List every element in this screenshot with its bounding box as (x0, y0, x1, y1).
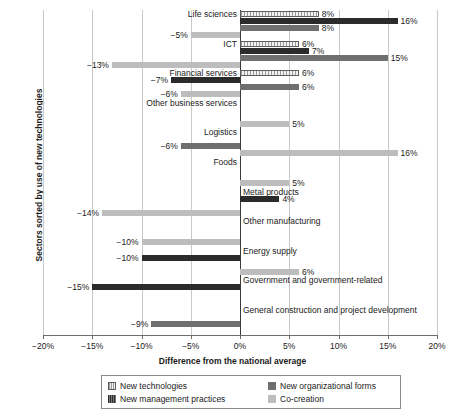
bar-tech (240, 11, 319, 17)
bar-cocr (181, 91, 240, 97)
category-label: Other manufacturing (240, 217, 320, 226)
legend-row: New technologies New organizational form… (108, 379, 394, 392)
bar-mgmt (92, 284, 240, 290)
legend-label-new-organizational-forms: New organizational forms (280, 381, 376, 391)
legend-swatch-co-creation (268, 395, 276, 403)
category-label: Government and government-related (240, 276, 382, 285)
bar-mgmt (142, 255, 241, 261)
bar-cocr (240, 269, 299, 275)
x-tick-label: 5% (283, 341, 295, 351)
x-tick-label: −15% (81, 341, 103, 351)
bar-mgmt (240, 48, 309, 54)
bar-value-label: −6% (161, 142, 181, 150)
x-tick-label: 20% (428, 341, 445, 351)
bar-value-label: −10% (117, 238, 142, 246)
bar-cocr (112, 62, 240, 68)
category-label: Financial services (169, 69, 240, 78)
x-tick-label: −5% (182, 341, 199, 351)
category-label: General construction and project develop… (240, 306, 417, 315)
legend: New technologies New organizational form… (101, 375, 401, 409)
bar-cocr (240, 121, 289, 127)
bar-value-label: −5% (171, 31, 191, 39)
bar-value-label: −10% (117, 254, 142, 262)
bar-value-label: 15% (388, 54, 408, 62)
legend-row: New management practices Co-creation (108, 392, 394, 405)
legend-item-new-management-practices: New management practices (108, 394, 268, 404)
bar-value-label: −15% (67, 283, 92, 291)
legend-label-new-management-practices: New management practices (120, 394, 225, 404)
bar-org (181, 143, 240, 149)
x-tick-label: 0% (234, 341, 246, 351)
bar-value-label: −9% (131, 320, 151, 328)
bar-org (240, 55, 388, 61)
bar-cocr (240, 150, 398, 156)
bar-value-label: 5% (289, 120, 304, 128)
bar-org (240, 84, 299, 90)
bar-value-label: −14% (77, 209, 102, 217)
bar-value-label: 16% (398, 149, 418, 157)
x-axis-line (43, 335, 437, 336)
category-label: Other business services (146, 99, 240, 108)
bar-cocr (191, 32, 240, 38)
legend-item-co-creation: Co-creation (268, 394, 324, 404)
bar-value-label: 5% (289, 179, 304, 187)
category-label: Logistics (204, 128, 240, 137)
category-label: ICT (223, 40, 240, 49)
bar-tech (240, 70, 299, 76)
bar-value-label: 6% (299, 69, 314, 77)
x-axis-title: Difference from the national average (0, 356, 465, 366)
bar-cocr (102, 210, 240, 216)
legend-label-co-creation: Co-creation (280, 394, 324, 404)
category-label: Foods (213, 158, 240, 167)
legend-label-new-technologies: New technologies (120, 381, 187, 391)
bar-value-label: 8% (319, 10, 334, 18)
bar-value-label: 16% (398, 17, 418, 25)
x-tick (437, 335, 438, 339)
bar-value-label: 6% (299, 83, 314, 91)
gridline (437, 10, 438, 335)
x-tick-label: 10% (330, 341, 347, 351)
x-tick-label: −10% (131, 341, 153, 351)
legend-item-new-technologies: New technologies (108, 381, 268, 391)
bar-cocr (240, 180, 289, 186)
bar-value-label: −7% (151, 76, 171, 84)
gridline (43, 10, 44, 335)
bar-org (151, 321, 240, 327)
legend-swatch-new-organizational-forms (268, 382, 276, 390)
bar-org (240, 25, 319, 31)
legend-item-new-organizational-forms: New organizational forms (268, 381, 376, 391)
bar-chart: Sectors sorted by use of new technologie… (0, 0, 465, 420)
bar-value-label: −13% (87, 61, 112, 69)
x-tick-label: 15% (379, 341, 396, 351)
plot-area: 8%16%8%−5%Life sciences6%7%15%−13%ICT6%−… (43, 10, 437, 335)
x-tick-label: −20% (32, 341, 54, 351)
bar-value-label: 8% (319, 24, 334, 32)
bar-cocr (142, 239, 241, 245)
bar-value-label: 7% (309, 47, 324, 55)
category-label: Energy supply (240, 247, 297, 256)
legend-swatch-new-technologies (108, 382, 116, 390)
category-label: Metal products (240, 188, 299, 197)
legend-swatch-new-management-practices (108, 395, 116, 403)
bar-tech (240, 41, 299, 47)
category-label: Life sciences (188, 10, 240, 19)
